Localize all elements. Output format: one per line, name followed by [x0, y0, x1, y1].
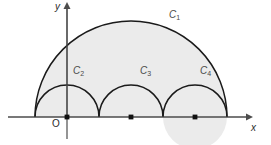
c1-fill — [35, 21, 227, 117]
curve-label-c3: C3 — [140, 66, 151, 76]
figure-container: y x O C1 C2 C3 C4 — [0, 0, 271, 145]
curve-label-c1: C1 — [169, 10, 180, 20]
curve-label-c2: C2 — [73, 66, 84, 76]
x-axis-label: x — [251, 123, 256, 133]
y-axis-label: y — [55, 2, 60, 12]
center-point-c4 — [193, 115, 198, 120]
origin-point — [65, 115, 70, 120]
curve-label-c2-subscript: 2 — [80, 70, 84, 77]
curve-label-c4-subscript: 4 — [207, 70, 211, 77]
figure-svg — [0, 0, 271, 145]
center-point-c3 — [129, 115, 134, 120]
curve-label-c3-subscript: 3 — [147, 70, 151, 77]
curve-label-c4: C4 — [200, 66, 211, 76]
origin-label: O — [52, 119, 60, 129]
curve-label-c1-subscript: 1 — [176, 14, 180, 21]
